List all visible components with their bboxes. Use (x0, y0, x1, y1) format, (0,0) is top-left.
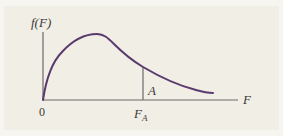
x-axis-label: F (243, 93, 251, 106)
critical-value-main: F (134, 106, 142, 121)
critical-value-label: FA (134, 107, 147, 123)
area-label: A (148, 84, 156, 97)
critical-value-subscript: A (142, 113, 148, 123)
y-axis-label: f(F) (31, 16, 51, 29)
origin-label: 0 (39, 106, 45, 118)
density-curve (43, 34, 213, 100)
